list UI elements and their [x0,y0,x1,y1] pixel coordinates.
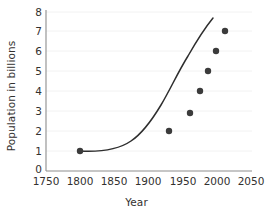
x-tick-label-1900: 1900 [128,176,168,187]
y-tick-label-7: 7 [28,26,42,37]
x-tick-label-2050: 2050 [231,176,271,187]
y-tick-label-6: 6 [28,46,42,57]
population-chart: 8 7 6 5 4 3 2 1 0 1750 1800 1850 1900 19… [0,0,273,217]
y-tick-label-3: 3 [28,106,42,117]
y-tick-label-5: 5 [28,66,42,77]
y-tick-label-2: 2 [28,126,42,137]
y-tick-label-4: 4 [28,86,42,97]
y-tick-label-8: 8 [28,7,42,18]
x-axis-title: Year [0,196,273,208]
y-axis-title: Population in billions [5,31,17,161]
gridlines [46,12,252,151]
y-tick-label-1: 1 [28,146,42,157]
y-tick-label-0: 0 [28,164,42,175]
